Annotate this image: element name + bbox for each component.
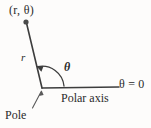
pole-leader-line	[33, 92, 42, 109]
radius-ray-line	[27, 23, 43, 88]
radius-label: r	[21, 52, 25, 63]
pole-leader-arrowhead	[39, 90, 44, 96]
polar-axis-line	[42, 87, 119, 88]
point-coordinates-label: (r, θ)	[9, 4, 34, 16]
angle-zero-label: θ = 0	[119, 78, 145, 90]
polar-axis-label: Polar axis	[61, 92, 109, 104]
angle-theta-label: θ	[64, 61, 70, 73]
pole-label: Pole	[5, 109, 26, 121]
point-marker-dot	[23, 19, 28, 24]
